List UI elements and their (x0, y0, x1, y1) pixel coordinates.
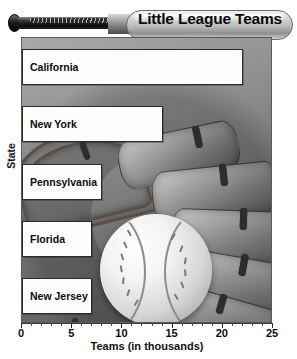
x-axis-title: Teams (in thousands) (21, 340, 273, 352)
x-tick-minor (182, 323, 183, 326)
x-tick-minor (61, 323, 62, 326)
x-tick-minor (242, 323, 243, 326)
baseball-seam-left (100, 214, 146, 323)
x-tick-label: 0 (18, 327, 24, 339)
x-tick-minor (41, 323, 42, 326)
x-tick-minor (152, 323, 153, 326)
x-axis-line (21, 323, 272, 324)
x-tick-label: 25 (266, 327, 278, 339)
chart-page: Little League Teams State (0, 0, 297, 359)
x-tick-minor (131, 323, 132, 326)
baseball-icon (100, 214, 212, 323)
x-tick-minor (212, 323, 213, 326)
x-tick-minor (51, 323, 52, 326)
x-tick-minor (232, 323, 233, 326)
title-banner: Little League Teams (8, 4, 293, 36)
x-tick-label: 15 (165, 327, 177, 339)
y-axis-title: State (5, 121, 17, 191)
x-tick-minor (162, 323, 163, 326)
chart-title: Little League Teams (130, 4, 290, 34)
x-tick-minor (202, 323, 203, 326)
x-tick-label: 5 (68, 327, 74, 339)
bar-california: California (22, 49, 243, 85)
x-tick-minor (101, 323, 102, 326)
bar-label: New Jersey (30, 290, 88, 302)
bar-new-jersey: New Jersey (22, 278, 92, 314)
x-tick-minor (111, 323, 112, 326)
x-tick-minor (81, 323, 82, 326)
x-tick-minor (192, 323, 193, 326)
glove-lace-3 (240, 208, 248, 230)
x-tick-label: 10 (115, 327, 127, 339)
x-tick-minor (91, 323, 92, 326)
baseball-seam-right (164, 214, 212, 323)
bar-label: Florida (30, 233, 65, 245)
bar-label: California (30, 61, 78, 73)
plot-area: CaliforniaNew YorkPennsylvaniaFloridaNew… (21, 37, 272, 323)
bar-new-york: New York (22, 106, 163, 142)
bar-pennsylvania: Pennsylvania (22, 164, 102, 200)
bar-florida: Florida (22, 221, 92, 257)
x-tick-minor (31, 323, 32, 326)
x-tick-minor (141, 323, 142, 326)
x-tick-minor (262, 323, 263, 326)
bat-grip-tape (30, 18, 108, 23)
bar-label: New York (30, 118, 77, 130)
bar-label: Pennsylvania (30, 176, 97, 188)
x-tick-label: 20 (216, 327, 228, 339)
x-tick-minor (252, 323, 253, 326)
